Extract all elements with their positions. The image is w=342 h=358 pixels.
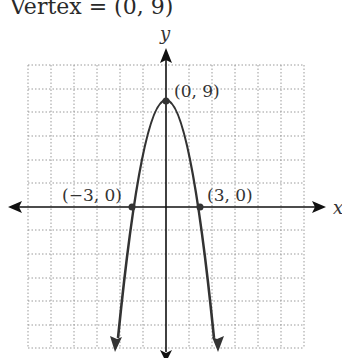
curve-left-arrow-icon xyxy=(110,336,122,352)
parabola-graph: (0, 9) (−3, 0) (3, 0) x y xyxy=(0,0,342,358)
y-axis-label: y xyxy=(159,23,171,44)
curve-right-arrow-icon xyxy=(212,336,224,352)
vertex-label: (0, 9) xyxy=(174,81,220,101)
left-intercept-point xyxy=(129,204,136,211)
right-intercept-label: (3, 0) xyxy=(207,185,253,205)
x-axis-label: x xyxy=(333,197,342,218)
right-intercept-point xyxy=(197,204,204,211)
vertex-point xyxy=(163,98,170,105)
left-intercept-label: (−3, 0) xyxy=(62,185,122,205)
